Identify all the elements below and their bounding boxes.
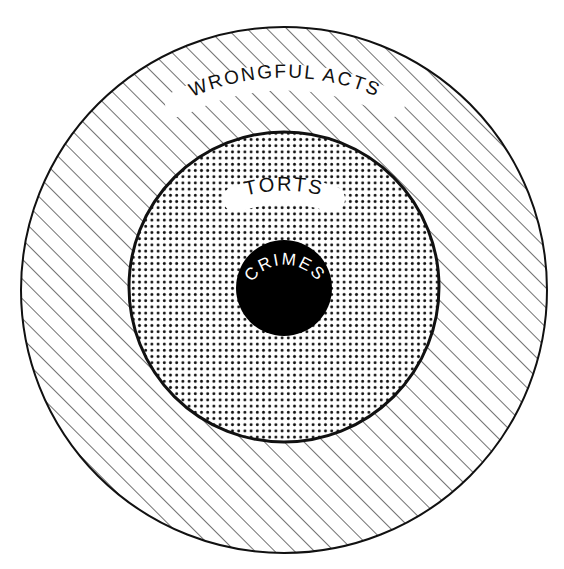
inner-circle-crimes: CRIMES xyxy=(236,240,332,336)
nested-circles-diagram: WRONGFUL ACTS TORTS CRIMES xyxy=(0,0,564,569)
